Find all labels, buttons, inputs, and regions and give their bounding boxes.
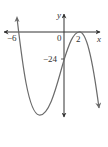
x-tick-label-neg6: −6	[7, 34, 17, 43]
x-tick-label-2: 2	[76, 35, 81, 44]
y-axis-label: y	[57, 11, 61, 20]
x-axis-label: x	[97, 35, 101, 44]
origin-label: 0	[57, 34, 62, 43]
function-graph	[0, 0, 108, 147]
y-tick-label-neg24: −24	[43, 55, 57, 64]
